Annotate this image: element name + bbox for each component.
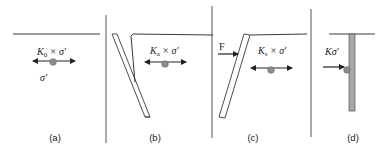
force-label: F (219, 41, 225, 52)
panel-a: K0 × σ′ σ′ (a) (13, 34, 100, 143)
pile (349, 34, 355, 111)
caption-c: (c) (247, 132, 258, 143)
caption-a: (a) (49, 132, 61, 143)
caption-d: (d) (347, 132, 359, 143)
retaining-wall (112, 34, 150, 117)
stress-label: Kσ′ (324, 46, 340, 57)
stress-label: Ks × σ′ (257, 45, 287, 58)
soil-element (162, 61, 169, 68)
soil-element (344, 67, 351, 74)
ground-surface (131, 34, 213, 82)
vertical-stress-label: σ′ (40, 72, 48, 83)
soil-element (268, 67, 275, 74)
ground-surface (250, 34, 307, 35)
soil-element (50, 59, 57, 66)
stress-label: K0 × σ′ (36, 46, 67, 59)
stress-label: Ka × σ′ (149, 45, 179, 58)
panel-c: F Ks × σ′ (c) (218, 34, 307, 143)
panel-d: Kσ′ (d) (323, 34, 375, 143)
caption-b: (b) (149, 132, 161, 143)
panel-b: Ka × σ′ (b) (112, 34, 213, 143)
earth-pressure-diagram: K0 × σ′ σ′ (a) Ka × σ′ (b) F Ks × σ′ (c) (0, 0, 385, 152)
